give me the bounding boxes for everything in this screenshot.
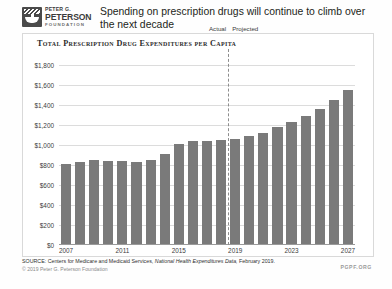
copyright-note: © 2019 Peter G. Peterson Foundation [22, 266, 372, 273]
y-axis-tick-label: $1,400 [34, 102, 54, 109]
bar-slot [285, 65, 299, 244]
source-date: February 2019. [239, 258, 275, 264]
logo-wordmark: PETER G. PETERSON FOUNDATION [45, 7, 91, 27]
bar [188, 141, 198, 244]
bar-slot [228, 65, 242, 244]
bar-slot [73, 65, 87, 244]
x-axis-tick-label: 2007 [59, 247, 73, 254]
bar [202, 141, 212, 244]
bar [103, 161, 113, 244]
bar [216, 140, 226, 244]
bar [315, 109, 325, 244]
bar [61, 164, 71, 244]
axis-baseline [59, 244, 355, 245]
torch-logo-icon [22, 7, 42, 27]
bar [75, 162, 85, 244]
bar [146, 160, 156, 244]
bar-slot [87, 65, 101, 244]
source-note: SOURCE: Centers for Medicare and Medicai… [22, 258, 372, 265]
bar [131, 162, 141, 244]
y-axis-tick-label: $0 [47, 242, 54, 249]
x-axis-tick-label: 2019 [228, 247, 242, 254]
bar [301, 116, 311, 244]
bar-slot [270, 65, 284, 244]
actual-projected-divider: ActualProjected [228, 49, 229, 245]
y-axis-tick-label: $1,600 [34, 82, 54, 89]
bar-slot [186, 65, 200, 244]
bar-series [59, 65, 355, 244]
x-axis-tick-label: 2023 [284, 247, 298, 254]
source-text: Centers for Medicare and Medicaid Servic… [48, 258, 154, 264]
bar-slot [59, 65, 73, 244]
bar-slot [172, 65, 186, 244]
watermark: PGPF.ORG [340, 264, 372, 270]
y-axis-tick-label: $400 [40, 202, 54, 209]
infographic-page: PETER G. PETERSON FOUNDATION Spending on… [0, 0, 392, 289]
footer: SOURCE: Centers for Medicare and Medicai… [22, 258, 372, 273]
source-prefix: SOURCE: [22, 258, 46, 264]
bar-slot [313, 65, 327, 244]
bar [160, 154, 170, 244]
header: PETER G. PETERSON FOUNDATION Spending on… [0, 0, 392, 34]
bar-slot [256, 65, 270, 244]
y-axis-tick-label: $800 [40, 162, 54, 169]
bar-slot [242, 65, 256, 244]
bar-slot [158, 65, 172, 244]
logo-line-2: PETERSON [45, 13, 91, 22]
bar [258, 133, 268, 244]
y-axis-tick-label: $1,800 [34, 62, 54, 69]
x-axis-tick-label: 2011 [116, 247, 130, 254]
bar-slot [101, 65, 115, 244]
y-axis-tick-label: $1,000 [34, 142, 54, 149]
bar-slot [299, 65, 313, 244]
bar-slot [144, 65, 158, 244]
bar [272, 127, 282, 244]
x-axis-tick-label: 2015 [172, 247, 186, 254]
bar-slot [200, 65, 214, 244]
bar [244, 136, 254, 244]
bar-slot [341, 65, 355, 244]
y-axis-tick-label: $1,200 [34, 122, 54, 129]
bar [286, 122, 296, 244]
bar-slot [129, 65, 143, 244]
bar [329, 100, 339, 244]
y-axis-labels: $0$200$400$600$800$1,000$1,200$1,400$1,6… [23, 65, 57, 245]
bar [343, 90, 353, 244]
bar-slot [214, 65, 228, 244]
projected-label: Projected [232, 25, 258, 32]
logo-line-3: FOUNDATION [45, 23, 91, 27]
bar [117, 161, 127, 244]
chart-title: Total Prescription Drug Expenditures per… [37, 39, 236, 48]
bowl-shape [25, 17, 39, 23]
bar-slot [115, 65, 129, 244]
chart-container: Total Prescription Drug Expenditures per… [22, 33, 374, 257]
y-axis-tick-label: $200 [40, 222, 54, 229]
y-axis-tick-label: $600 [40, 182, 54, 189]
actual-label: Actual [209, 25, 226, 32]
bar [89, 160, 99, 244]
bar [230, 139, 240, 244]
x-axis-tick-label: 2027 [341, 247, 355, 254]
source-publication: National Health Expenditures Data, [155, 258, 238, 264]
bar-slot [327, 65, 341, 244]
bar [174, 144, 184, 244]
pgpf-logo: PETER G. PETERSON FOUNDATION [22, 7, 91, 27]
plot-area: ActualProjected [59, 65, 355, 245]
